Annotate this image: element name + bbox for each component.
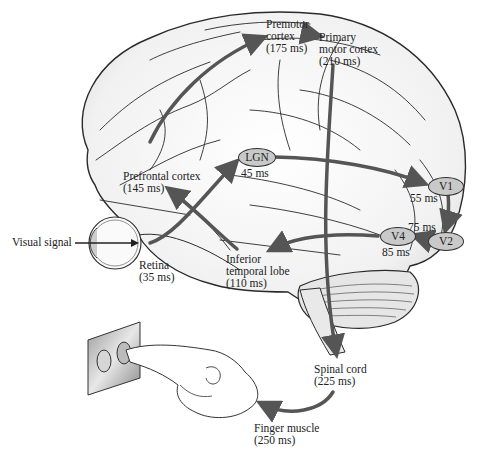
primary-line2: motor cortex [319,43,378,55]
primary-time: (210 ms) [319,55,378,67]
premotor-line2: cortex [266,30,309,42]
prefrontal-name: Prefrontal cortex [123,170,201,182]
label-retina: Retina (35 ms) [139,259,174,283]
arrow-premotor-to-primary [308,34,318,36]
it-line1: Inferior [226,253,290,265]
finger-time: (250 ms) [254,434,319,446]
retina-name: Retina [139,259,174,271]
spinal-time: (225 ms) [314,375,367,387]
retina-time: (35 ms) [139,271,174,283]
label-spinal-cord: Spinal cord (225 ms) [314,363,367,387]
spinal-name: Spinal cord [314,363,367,375]
button-press-illustration [88,322,258,418]
primary-line1: Primary [319,31,378,43]
node-v2: V2 [428,232,464,251]
label-visual-signal: Visual signal [12,236,72,248]
v4-time: 85 ms [382,246,410,258]
lgn-time: 45 ms [241,167,269,179]
arrow-spinal-to-finger [262,392,333,411]
eye-illustration [75,217,141,269]
node-v4: V4 [380,227,416,246]
label-primary-motor: Primary motor cortex (210 ms) [319,31,378,67]
premotor-line1: Premotor [266,18,309,30]
brain-pathway-diagram: Visual signal Retina (35 ms) LGN 45 ms V… [0,0,480,459]
it-line2: temporal lobe [226,265,290,277]
label-prefrontal: Prefrontal cortex (145 ms) [123,170,201,194]
it-time: (110 ms) [226,277,290,289]
label-finger-muscle: Finger muscle (250 ms) [254,422,319,446]
prefrontal-time: (145 ms) [123,182,201,194]
finger-name: Finger muscle [254,422,319,434]
label-inferior-temporal: Inferior temporal lobe (110 ms) [226,253,290,289]
label-premotor: Premotor cortex (175 ms) [266,18,309,54]
premotor-time: (175 ms) [266,42,309,54]
v1-time: 55 ms [410,192,438,204]
node-lgn: LGN [238,148,276,167]
